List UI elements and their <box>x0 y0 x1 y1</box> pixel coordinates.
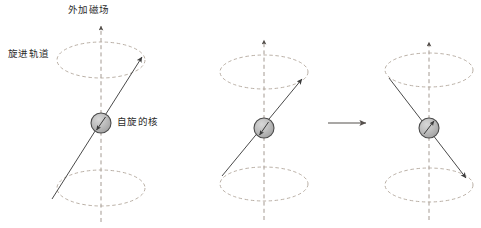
label-spinning-nucleus: 自旋的核 <box>117 117 158 127</box>
panel-middle <box>220 40 308 220</box>
panel-flipped <box>385 42 473 220</box>
label-external-field: 外加磁场 <box>68 5 109 15</box>
label-precession-orbit: 旋进轨道 <box>8 49 49 59</box>
precession-figure: 外加磁场 旋进轨道 自旋的核 <box>0 0 481 228</box>
precession-diagram-svg <box>0 0 481 228</box>
